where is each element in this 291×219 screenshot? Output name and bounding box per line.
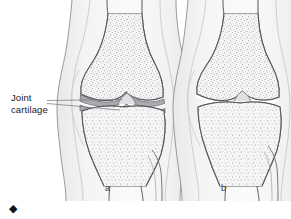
joint-cartilage-label-line1: Joint xyxy=(11,92,48,104)
panel-b xyxy=(173,0,291,201)
panel-letter-a: a xyxy=(105,183,110,193)
panel-a xyxy=(57,0,190,201)
joint-cartilage-label-line2: cartilage xyxy=(11,104,48,116)
joint-cartilage-label: Joint cartilage xyxy=(11,92,48,115)
knee-joint-figure: Joint cartilage a b ◆ xyxy=(0,0,291,219)
diamond-bullet-icon: ◆ xyxy=(9,203,19,213)
panel-letter-b: b xyxy=(221,183,226,193)
